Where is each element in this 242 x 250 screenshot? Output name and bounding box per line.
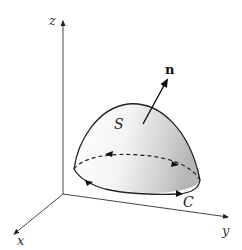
dome-surface <box>74 104 200 193</box>
curve-arrow-front-right <box>176 190 183 197</box>
normal-label: n <box>165 62 175 77</box>
z-axis-label: z <box>48 13 56 28</box>
surface-s <box>74 104 200 193</box>
y-axis <box>63 194 228 217</box>
x-axis <box>14 194 63 234</box>
surface-label: S <box>114 116 124 132</box>
x-axis-label: x <box>17 233 25 248</box>
curve-label: C <box>183 194 194 210</box>
y-axis-label: y <box>221 223 230 238</box>
stokes-surface-diagram: z x y n S C <box>0 0 242 250</box>
